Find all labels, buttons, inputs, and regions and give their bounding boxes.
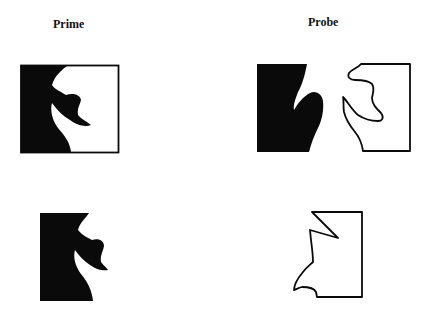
prime-top-stimulus — [21, 65, 119, 153]
stimulus-figure — [0, 0, 429, 311]
probe-top-outline-region — [343, 64, 410, 151]
prime-bottom-black-region — [40, 213, 108, 301]
probe-top-black-region — [257, 64, 323, 152]
probe-bottom-outline-region — [294, 212, 362, 297]
prime-top-black-region — [21, 65, 91, 152]
